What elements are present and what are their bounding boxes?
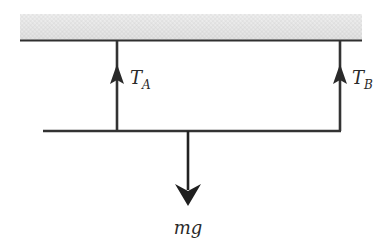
label-tension-b: TB bbox=[352, 67, 373, 92]
weight-vector bbox=[175, 131, 201, 206]
rope-b bbox=[333, 41, 347, 131]
label-tension-a: TA bbox=[130, 67, 151, 92]
ceiling bbox=[20, 14, 362, 41]
free-body-diagram: TA TB mg bbox=[0, 0, 392, 247]
label-weight: mg bbox=[174, 217, 203, 238]
rope-a bbox=[110, 41, 124, 131]
ceiling-hatch-texture bbox=[20, 14, 362, 40]
